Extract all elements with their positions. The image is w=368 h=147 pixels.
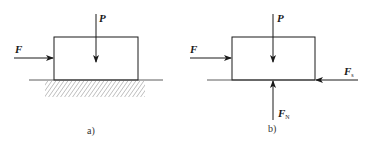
caption-a: a) bbox=[87, 126, 95, 136]
diagram-b bbox=[190, 14, 358, 120]
label-force-f: F bbox=[15, 44, 22, 55]
force-subscript: s bbox=[351, 72, 353, 78]
label-force-p: P bbox=[99, 13, 106, 24]
force-symbol: P bbox=[277, 12, 284, 24]
force-symbol: F bbox=[15, 43, 22, 55]
caption-b: b) bbox=[268, 124, 276, 134]
label-force-p: P bbox=[277, 13, 284, 24]
label-force-f: F bbox=[190, 44, 197, 55]
force-subscript: N bbox=[285, 114, 289, 120]
label-force-fs: Fs bbox=[344, 66, 354, 78]
label-force-fn: FN bbox=[278, 108, 290, 120]
ground-hatching bbox=[45, 81, 145, 97]
diagram-a bbox=[14, 14, 163, 97]
force-symbol: P bbox=[99, 12, 106, 24]
force-symbol: F bbox=[190, 43, 197, 55]
diagram-canvas bbox=[0, 0, 368, 147]
